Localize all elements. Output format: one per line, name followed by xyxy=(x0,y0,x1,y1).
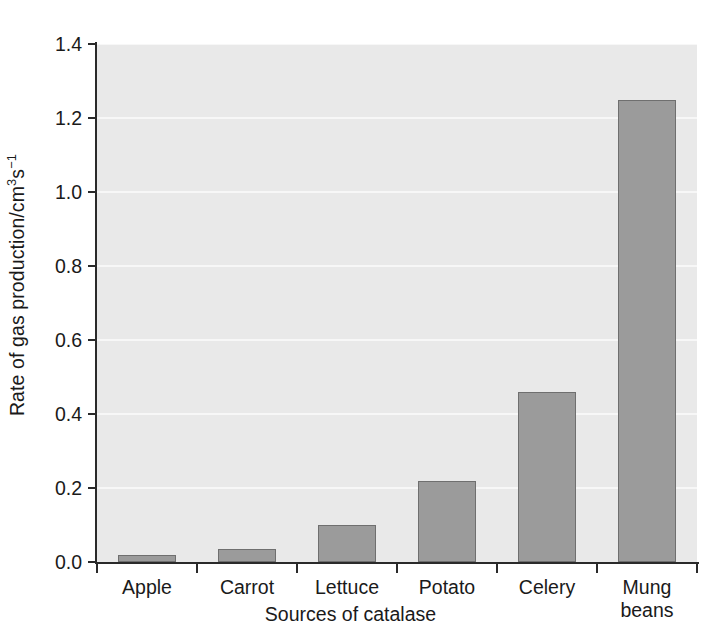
plot-area xyxy=(97,44,697,562)
x-axis-tick-mark xyxy=(696,564,698,573)
x-axis-tick-mark xyxy=(496,564,498,573)
y-axis-tick-label: 0.4 xyxy=(30,403,82,426)
x-axis-tick-label: Celery xyxy=(497,576,597,599)
gridline xyxy=(97,191,697,193)
y-axis-title: Rate of gas production/cm3s−1 xyxy=(6,154,29,416)
y-axis-title-mid: s xyxy=(6,169,28,179)
y-axis-title-sup-cubic: 3 xyxy=(4,179,19,186)
x-axis-tick-label: Carrot xyxy=(197,576,297,599)
gridline xyxy=(97,117,697,119)
x-axis-tick-label: Apple xyxy=(97,576,197,599)
y-axis-title-container: Rate of gas production/cm3s−1 xyxy=(0,0,34,570)
y-axis-title-sup-inverse: −1 xyxy=(4,154,19,169)
y-axis-title-prefix: Rate of gas production/cm xyxy=(6,186,28,416)
y-axis-tick-label: 1.0 xyxy=(30,181,82,204)
y-axis-tick-label: 1.4 xyxy=(30,33,82,56)
bar xyxy=(618,100,676,563)
gridline xyxy=(97,487,697,489)
bar-chart-figure: Rate of gas production/cm3s−1 0.00.20.40… xyxy=(0,0,701,644)
x-axis-tick-label: Potato xyxy=(397,576,497,599)
y-axis-tick-label: 0.8 xyxy=(30,255,82,278)
x-axis-tick-mark xyxy=(596,564,598,573)
x-axis-tick-mark xyxy=(96,564,98,573)
gridline xyxy=(97,44,697,45)
gridline xyxy=(97,265,697,267)
bar xyxy=(118,555,176,562)
x-axis-tick-mark xyxy=(396,564,398,573)
y-axis-line xyxy=(95,42,97,564)
y-axis-tick-label: 0.2 xyxy=(30,477,82,500)
bar xyxy=(518,392,576,562)
y-axis-tick-label: 1.2 xyxy=(30,107,82,130)
bar xyxy=(218,549,276,562)
x-axis-tick-marks xyxy=(0,564,701,574)
x-axis-tick-mark xyxy=(196,564,198,573)
bar xyxy=(418,481,476,562)
y-axis-tick-label: 0.6 xyxy=(30,329,82,352)
x-axis-tick-label: Lettuce xyxy=(297,576,397,599)
x-axis-tick-mark xyxy=(296,564,298,573)
gridline xyxy=(97,413,697,415)
bar xyxy=(318,525,376,562)
gridline xyxy=(97,339,697,341)
y-axis-tick-labels: 0.00.20.40.60.81.01.21.4 xyxy=(30,0,82,644)
x-axis-title: Sources of catalase xyxy=(0,603,701,626)
